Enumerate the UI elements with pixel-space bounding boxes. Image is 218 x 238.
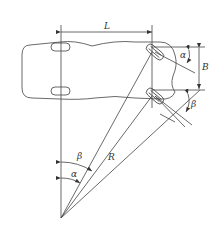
wheelbase-label: L xyxy=(104,22,110,31)
rear-wheel-left xyxy=(51,43,70,51)
rear-wheel-right xyxy=(51,87,70,95)
radius-label: R xyxy=(108,153,115,162)
radius-line-inner xyxy=(61,52,152,218)
vehicle-body xyxy=(22,42,176,100)
alpha-label-top: α xyxy=(180,51,186,60)
steering-geometry-diagram xyxy=(0,0,218,238)
beta-label-pivot: β xyxy=(77,152,82,161)
beta-label-top: β xyxy=(191,100,196,109)
alpha-label-pivot: α xyxy=(71,170,77,179)
track-width-label: B xyxy=(202,63,209,72)
